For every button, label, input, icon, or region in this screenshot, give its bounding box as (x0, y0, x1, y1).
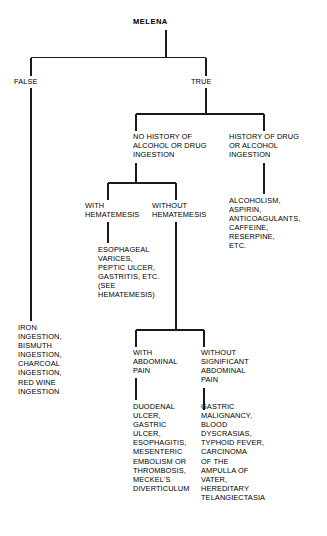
outcome-with-abdominal-pain: DUODENAL ULCER, GASTRIC ULCER, ESOPHAGIT… (133, 402, 190, 493)
branch-label-false: FALSE (14, 77, 38, 86)
outcome-with-hematemesis: ESOPHAGEAL VARICES, PEPTIC ULCER, GASTRI… (98, 245, 159, 300)
branch-label-true: TRUE (191, 77, 212, 86)
node-history-drug-alcohol: HISTORY OF DRUG OR ALCOHOL INGESTION (229, 132, 299, 159)
outcome-history-substances: ALCOHOLISM, ASPIRIN, ANTICOAGULANTS, CAF… (229, 196, 300, 251)
node-no-history-alcohol-drug: NO HISTORY OF ALCOHOL OR DRUG INGESTION (133, 132, 207, 159)
outcome-false-ingestions: IRON INGESTION, BISMUTH INGESTION, CHARC… (18, 323, 62, 396)
node-with-abdominal-pain: WITH ABDOMINAL PAIN (133, 348, 177, 375)
node-without-significant-abdominal-pain: WITHOUT SIGNIFICANT ABDOMINAL PAIN (201, 348, 249, 384)
root-node-melena: MELENA (133, 17, 168, 26)
node-without-hematemesis: WITHOUT HEMATEMESIS (152, 201, 206, 219)
flowchart-canvas: MELENA FALSE TRUE IRON INGESTION, BISMUT… (0, 0, 327, 536)
outcome-without-abdominal-pain: GASTRIC MALIGNANCY, BLOOD DYSCRASIAS, TY… (201, 402, 265, 502)
node-with-hematemesis: WITH HEMATEMESIS (85, 201, 139, 219)
